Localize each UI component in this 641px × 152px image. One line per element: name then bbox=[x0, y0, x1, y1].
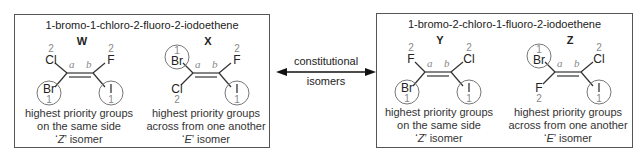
svg-text:X: X bbox=[204, 35, 212, 47]
svg-text:Z: Z bbox=[567, 34, 574, 46]
molecule-w: W a b 2 Cl Br 1 2 F I 1 bbox=[25, 33, 135, 107]
svg-text:2: 2 bbox=[536, 93, 542, 104]
svg-text:a: a bbox=[427, 57, 433, 69]
molecule-x-description: highest priority groups across from one … bbox=[143, 107, 269, 146]
molecule-z: Z a b 1 Br F 2 2 Cl I 1 bbox=[515, 32, 625, 106]
arrow-label-top: constitutional bbox=[276, 55, 376, 67]
svg-text:b: b bbox=[574, 57, 580, 69]
svg-text:2: 2 bbox=[174, 94, 180, 105]
svg-text:Y: Y bbox=[436, 34, 444, 46]
molecule-y: Y a b 2 F Br 1 2 Cl I 1 bbox=[383, 32, 493, 106]
isomer-label: ‘Z’ isomer bbox=[19, 133, 139, 146]
molecule-y-description: highest priority groups on the same side… bbox=[379, 106, 499, 145]
svg-text:1: 1 bbox=[108, 94, 114, 105]
molecule-w-description: highest priority groups on the same side… bbox=[19, 107, 139, 146]
svg-text:a: a bbox=[195, 58, 201, 70]
svg-text:a: a bbox=[69, 58, 75, 70]
right-panel-box: 1-bromo-2-chloro-1-fluoro-2-iodoethene Y… bbox=[376, 13, 633, 148]
molecule-x-structure: X a b 1 Br Cl 2 2 F I 1 bbox=[153, 33, 263, 107]
svg-text:b: b bbox=[444, 57, 450, 69]
svg-text:W: W bbox=[77, 35, 88, 47]
molecule-z-structure: Z a b 1 Br F 2 2 Cl I 1 bbox=[515, 32, 625, 106]
arrow-label-bottom: isomers bbox=[276, 75, 376, 87]
svg-text:Br: Br bbox=[533, 53, 545, 67]
svg-text:Br: Br bbox=[171, 54, 183, 68]
svg-text:Cl: Cl bbox=[463, 52, 474, 66]
svg-text:Cl: Cl bbox=[45, 53, 56, 67]
right-panel-title: 1-bromo-2-chloro-1-fluoro-2-iodoethene bbox=[377, 18, 632, 30]
svg-text:b: b bbox=[212, 58, 218, 70]
svg-text:F: F bbox=[407, 52, 414, 66]
left-panel-title: 1-bromo-1-chloro-2-fluoro-2-iodoethene bbox=[15, 19, 269, 31]
svg-text:F: F bbox=[107, 53, 114, 67]
svg-text:1: 1 bbox=[234, 94, 240, 105]
isomer-label: ‘E’ isomer bbox=[505, 132, 631, 145]
svg-text:Cl: Cl bbox=[593, 52, 604, 66]
left-panel-box: 1-bromo-1-chloro-2-fluoro-2-iodoethene W… bbox=[14, 14, 270, 148]
isomer-label: ‘E’ isomer bbox=[143, 133, 269, 146]
molecule-x: X a b 1 Br Cl 2 2 F I 1 bbox=[153, 33, 263, 107]
svg-text:a: a bbox=[557, 57, 563, 69]
molecule-y-structure: Y a b 2 F Br 1 2 Cl I 1 bbox=[383, 32, 493, 106]
svg-text:1: 1 bbox=[596, 93, 602, 104]
isomer-label: ‘Z’ isomer bbox=[379, 132, 499, 145]
molecule-w-structure: W a b 2 Cl Br 1 2 F I 1 bbox=[25, 33, 135, 107]
molecule-z-description: highest priority groups across from one … bbox=[505, 106, 631, 145]
svg-text:1: 1 bbox=[46, 94, 52, 105]
svg-text:1: 1 bbox=[466, 93, 472, 104]
svg-text:F: F bbox=[233, 53, 240, 67]
svg-text:b: b bbox=[86, 58, 92, 70]
svg-text:1: 1 bbox=[404, 93, 410, 104]
